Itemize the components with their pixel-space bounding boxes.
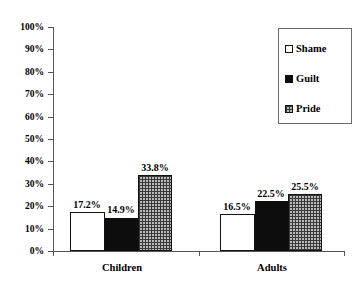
data-label-children-pride: 33.8% [141, 162, 169, 173]
y-tick-label-90: 90% [0, 44, 44, 54]
legend-item-pride[interactable]: Pride [285, 103, 321, 114]
y-tick-label-40: 40% [0, 156, 44, 166]
x-category-label-adults: Adults [257, 262, 287, 274]
y-tick-label-70: 70% [0, 89, 44, 99]
y-tick-label-50: 50% [0, 134, 44, 144]
bar-adults-pride[interactable] [288, 194, 322, 251]
y-tick-label-20: 20% [0, 201, 44, 211]
bar-adults-guilt[interactable] [255, 201, 288, 251]
x-tick-right [344, 251, 345, 256]
legend-item-shame[interactable]: Shame [285, 43, 326, 54]
y-tick-label-30: 30% [0, 179, 44, 189]
legend-item-guilt[interactable]: Guilt [285, 73, 319, 84]
y-tick-label-100: 100% [0, 22, 44, 32]
y-tick-label-80: 80% [0, 67, 44, 77]
y-tick-label-0: 0% [0, 246, 44, 256]
data-label-children-shame: 17.2% [73, 199, 101, 210]
legend: Shame Guilt Pride [278, 28, 352, 124]
data-label-adults-guilt: 22.5% [257, 188, 285, 199]
data-label-children-guilt: 14.9% [107, 204, 135, 215]
legend-label-shame: Shame [296, 43, 326, 54]
y-tick-label-60: 60% [0, 112, 44, 122]
legend-swatch-pride-icon [285, 105, 293, 113]
legend-swatch-guilt-icon [285, 75, 293, 83]
bar-adults-shame[interactable] [220, 214, 255, 251]
data-label-adults-pride: 25.5% [291, 181, 319, 192]
bar-chart: 100% 90% 80% 70% 60% 50% 40% 30% 20% 10%… [0, 0, 362, 297]
bar-children-pride[interactable] [138, 175, 172, 251]
y-tick-label-10: 10% [0, 224, 44, 234]
legend-label-guilt: Guilt [296, 73, 319, 84]
data-label-adults-shame: 16.5% [223, 201, 251, 212]
bar-children-guilt[interactable] [105, 218, 138, 251]
legend-label-pride: Pride [296, 103, 321, 114]
x-category-label-children: Children [102, 262, 142, 274]
x-tick-left [53, 251, 54, 256]
legend-swatch-shame-icon [285, 45, 293, 53]
x-tick-middle [199, 251, 200, 256]
bar-children-shame[interactable] [70, 212, 105, 251]
